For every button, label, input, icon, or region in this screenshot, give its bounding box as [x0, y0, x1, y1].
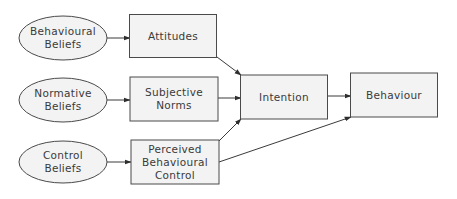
node-normative-beliefs: NormativeBeliefs: [19, 78, 107, 122]
node-label-line: Control: [155, 169, 195, 181]
node-label-line: Intention: [259, 91, 309, 103]
node-attitudes: Attitudes: [130, 15, 217, 58]
theory-of-planned-behaviour-diagram: BehaviouralBeliefsNormativeBeliefsContro…: [0, 0, 457, 199]
node-control-beliefs: ControlBeliefs: [19, 141, 107, 183]
node-behavioural-beliefs: BehaviouralBeliefs: [19, 16, 107, 60]
node-label-line: Beliefs: [44, 162, 81, 174]
node-label-line: Behaviour: [366, 89, 422, 101]
node-label-line: Perceived: [148, 143, 202, 155]
node-label-line: Control: [43, 149, 83, 161]
node-label-line: Behavioural: [142, 156, 208, 168]
node-label-line: Beliefs: [44, 100, 81, 112]
node-behaviour: Behaviour: [351, 73, 438, 117]
node-label-line: Behavioural: [30, 25, 96, 37]
edge-attitudes-to-intention: [217, 57, 241, 75]
edge-perceived-behavioural-control-to-intention: [219, 119, 241, 141]
node-perceived-behavioural-control: PerceivedBehaviouralControl: [131, 140, 219, 184]
node-label-line: Subjective: [145, 86, 203, 98]
node-label-line: Norms: [156, 99, 192, 111]
node-label-line: Attitudes: [148, 30, 198, 42]
node-intention: Intention: [241, 75, 328, 119]
node-label-line: Beliefs: [44, 38, 81, 50]
edge-perceived-behavioural-control-to-behaviour: [219, 117, 351, 162]
node-label-line: Normative: [34, 87, 91, 99]
node-subjective-norms: SubjectiveNorms: [130, 77, 218, 121]
